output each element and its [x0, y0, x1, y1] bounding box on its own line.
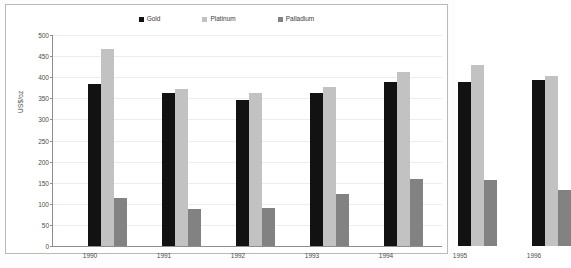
- bar-palladium[interactable]: [336, 194, 349, 246]
- legend-item-palladium[interactable]: Palladium: [278, 16, 315, 23]
- y-tick-label: 450: [38, 53, 49, 60]
- chart-frame: GoldPlatinumPalladium US$/oz 05010015020…: [5, 4, 448, 254]
- bar-group: 1995: [423, 35, 497, 246]
- y-tick-label: 400: [38, 74, 49, 81]
- legend-swatch-icon: [139, 17, 144, 22]
- plot-wrapper: 050100150200250300350400450500 199019911…: [52, 35, 442, 247]
- legend-item-gold[interactable]: Gold: [139, 16, 161, 23]
- legend-swatch-icon: [278, 17, 283, 22]
- bar-palladium[interactable]: [484, 180, 497, 246]
- y-tick-label: 300: [38, 116, 49, 123]
- x-tick-label: 1996: [497, 252, 571, 259]
- plot-area: 050100150200250300350400450500 199019911…: [52, 35, 442, 247]
- legend-swatch-icon: [202, 17, 207, 22]
- bar-gold[interactable]: [458, 82, 471, 246]
- bar-platinum[interactable]: [471, 65, 484, 246]
- bar-group: 1996: [497, 35, 571, 246]
- bar-group: 1990: [53, 35, 127, 246]
- y-tick-mark: [50, 246, 53, 247]
- y-tick-label: 200: [38, 158, 49, 165]
- bar-palladium[interactable]: [558, 190, 571, 246]
- bar-group: 1993: [275, 35, 349, 246]
- y-tick-label: 0: [45, 243, 49, 250]
- bar-palladium[interactable]: [188, 209, 201, 246]
- y-tick-label: 100: [38, 200, 49, 207]
- x-tick-label: 1991: [127, 252, 201, 259]
- bar-group: 1994: [349, 35, 423, 246]
- y-axis-title: US$/oz: [17, 90, 24, 113]
- bar-gold[interactable]: [310, 93, 323, 246]
- bar-gold[interactable]: [532, 80, 545, 246]
- bar-platinum[interactable]: [101, 49, 114, 246]
- x-tick-label: 1995: [423, 252, 497, 259]
- x-tick-label: 1992: [201, 252, 275, 259]
- bar-gold[interactable]: [384, 82, 397, 246]
- y-tick-label: 250: [38, 137, 49, 144]
- y-tick-label: 50: [42, 221, 49, 228]
- chart-legend: GoldPlatinumPalladium: [6, 13, 447, 25]
- y-tick-label: 350: [38, 95, 49, 102]
- bar-gold[interactable]: [236, 100, 249, 246]
- bar-palladium[interactable]: [262, 208, 275, 246]
- bar-platinum[interactable]: [249, 93, 262, 246]
- bar-group: 1992: [201, 35, 275, 246]
- bar-platinum[interactable]: [323, 87, 336, 246]
- bar-gold[interactable]: [88, 84, 101, 246]
- legend-label: Gold: [147, 16, 161, 23]
- x-tick-label: 1990: [53, 252, 127, 259]
- y-tick-label: 500: [38, 32, 49, 39]
- y-tick-label: 150: [38, 179, 49, 186]
- legend-label: Palladium: [286, 16, 315, 23]
- x-tick-label: 1994: [349, 252, 423, 259]
- bar-palladium[interactable]: [114, 198, 127, 246]
- bar-group: 1991: [127, 35, 201, 246]
- legend-label: Platinum: [210, 16, 235, 23]
- bar-palladium[interactable]: [410, 179, 423, 246]
- bar-platinum[interactable]: [175, 89, 188, 246]
- bar-platinum[interactable]: [397, 72, 410, 246]
- bar-gold[interactable]: [162, 93, 175, 246]
- bar-groups: 1990199119921993199419951996: [53, 35, 442, 246]
- bar-platinum[interactable]: [545, 76, 558, 246]
- x-tick-label: 1993: [275, 252, 349, 259]
- legend-item-platinum[interactable]: Platinum: [202, 16, 235, 23]
